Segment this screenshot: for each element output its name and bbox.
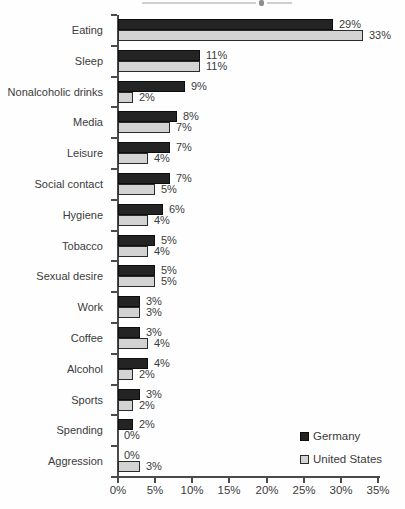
- y-tick: [111, 445, 117, 447]
- y-tick: [111, 230, 117, 232]
- y-tick: [111, 260, 117, 262]
- x-tick-label: 35%: [356, 484, 400, 496]
- value-label-germany: 2%: [139, 419, 155, 430]
- x-tick: [228, 478, 230, 483]
- bar-united-states: [118, 184, 155, 195]
- category-label: Media: [0, 116, 110, 128]
- value-label-united-states: 0%: [124, 430, 140, 441]
- bar-united-states: [118, 122, 170, 133]
- legend-swatch-united-states: [300, 455, 309, 464]
- value-label-united-states: 5%: [161, 276, 177, 287]
- x-tick: [191, 478, 193, 483]
- category-label: Sexual desire: [0, 270, 110, 282]
- x-tick: [303, 478, 305, 483]
- y-tick: [111, 291, 117, 293]
- category-label: Sports: [0, 394, 110, 406]
- legend-item-united-states: United States: [300, 453, 382, 465]
- y-tick: [111, 45, 117, 47]
- category-label: Tobacco: [0, 240, 110, 252]
- category-label: Sleep: [0, 55, 110, 67]
- value-label-united-states: 7%: [176, 122, 192, 133]
- category-label: Nonalcoholic drinks: [0, 86, 110, 98]
- value-label-united-states: 4%: [154, 338, 170, 349]
- bar-united-states: [118, 276, 155, 287]
- value-label-united-states: 4%: [154, 215, 170, 226]
- y-tick: [111, 106, 117, 108]
- bar-united-states: [118, 338, 148, 349]
- bar-united-states: [118, 400, 133, 411]
- category-label: Social contact: [0, 178, 110, 190]
- chart-canvas: Eating29%33%Sleep11%11%Nonalcoholic drin…: [0, 0, 405, 509]
- value-label-united-states: 2%: [139, 92, 155, 103]
- x-tick: [377, 478, 379, 483]
- value-label-germany: 7%: [176, 142, 192, 153]
- legend-item-germany: Germany: [300, 430, 382, 442]
- category-label: Coffee: [0, 332, 110, 344]
- value-label-united-states: 3%: [146, 307, 162, 318]
- value-label-germany: 0%: [124, 450, 140, 461]
- value-label-germany: 4%: [154, 358, 170, 369]
- y-tick: [111, 14, 117, 16]
- y-tick: [111, 76, 117, 78]
- value-label-united-states: 33%: [369, 30, 391, 41]
- value-label-united-states: 5%: [161, 184, 177, 195]
- category-label: Leisure: [0, 147, 110, 159]
- bar-germany: [118, 19, 333, 30]
- bar-germany: [118, 265, 155, 276]
- bar-united-states: [118, 92, 133, 103]
- bar-united-states: [118, 369, 133, 380]
- legend-label-united-states: United States: [313, 453, 382, 465]
- y-tick: [111, 322, 117, 324]
- value-label-united-states: 11%: [206, 61, 227, 72]
- bar-united-states: [118, 30, 363, 41]
- y-tick: [111, 353, 117, 355]
- value-label-united-states: 2%: [139, 400, 155, 411]
- y-tick: [111, 137, 117, 139]
- category-label: Spending: [0, 424, 110, 436]
- legend: Germany United States: [300, 430, 382, 465]
- value-label-germany: 29%: [339, 19, 361, 30]
- bar-united-states: [118, 153, 148, 164]
- y-tick: [111, 168, 117, 170]
- x-tick: [340, 478, 342, 483]
- category-label: Work: [0, 301, 110, 313]
- x-tick: [117, 478, 119, 483]
- y-tick: [111, 199, 117, 201]
- value-label-germany: 6%: [169, 204, 185, 215]
- x-tick: [154, 478, 156, 483]
- y-tick: [111, 384, 117, 386]
- bar-united-states: [118, 61, 200, 72]
- value-label-germany: 7%: [176, 173, 192, 184]
- y-tick: [111, 414, 117, 416]
- category-label: Eating: [0, 24, 110, 36]
- bar-germany: [118, 235, 155, 246]
- bar-united-states: [118, 307, 140, 318]
- legend-label-germany: Germany: [313, 430, 360, 442]
- x-tick: [266, 478, 268, 483]
- category-label: Aggression: [0, 455, 110, 467]
- value-label-united-states: 4%: [154, 153, 170, 164]
- value-label-germany: 9%: [191, 81, 207, 92]
- bar-germany: [118, 327, 140, 338]
- bar-germany: [118, 50, 200, 61]
- legend-swatch-germany: [300, 432, 309, 441]
- value-label-united-states: 4%: [154, 246, 170, 257]
- category-label: Alcohol: [0, 363, 110, 375]
- value-label-united-states: 3%: [146, 461, 162, 472]
- bar-germany: [118, 389, 140, 400]
- bar-united-states: [118, 461, 140, 472]
- bar-united-states: [118, 246, 148, 257]
- bar-united-states: [118, 215, 148, 226]
- category-label: Hygiene: [0, 209, 110, 221]
- bar-germany: [118, 111, 177, 122]
- bar-germany: [118, 296, 140, 307]
- value-label-united-states: 2%: [139, 369, 155, 380]
